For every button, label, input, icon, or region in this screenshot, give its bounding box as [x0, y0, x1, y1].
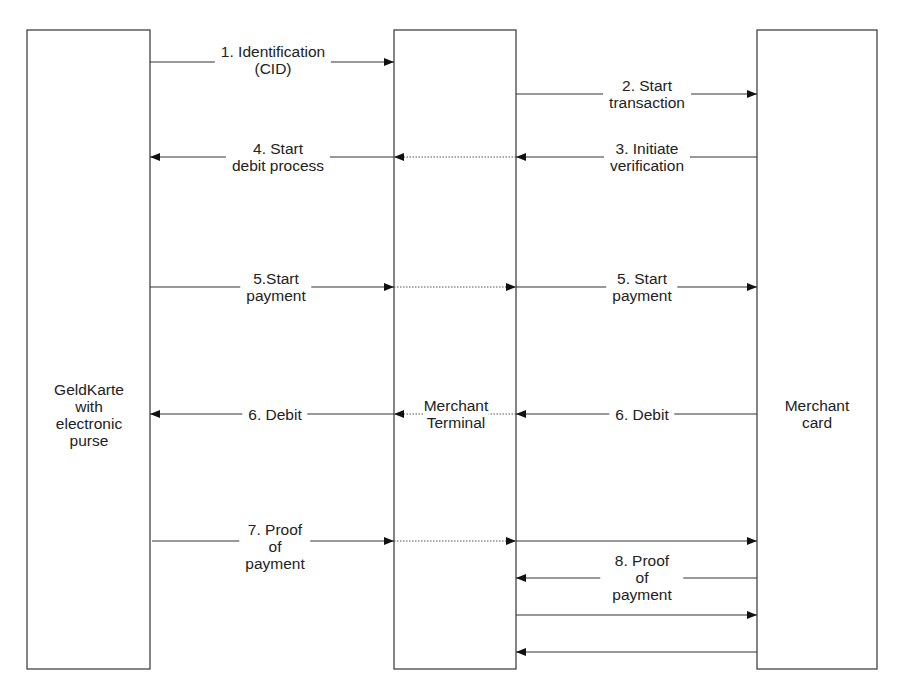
terminal-box — [394, 30, 516, 669]
terminal-label: MerchantTerminal — [424, 397, 489, 431]
sequence-diagram — [0, 0, 912, 697]
geldkarte-box — [27, 30, 150, 669]
merchant-card-box — [757, 30, 877, 669]
message-2-label: 2. Starttransaction — [603, 77, 691, 111]
message-5b-label: 5. Startpayment — [606, 270, 677, 304]
message-8-label: 8. Proofofpayment — [600, 552, 683, 603]
message-6b-label: 6. Debit — [242, 406, 307, 423]
message-6a-label: 6. Debit — [609, 406, 674, 423]
message-4-label: 4. Startdebit process — [226, 140, 330, 174]
message-3-label: 3. Initiateverification — [604, 140, 690, 174]
geldkarte-label: GeldKartewith electronicpurse — [54, 381, 124, 449]
merchant-card-label: Merchantcard — [785, 397, 850, 431]
message-7-label: 7. Proofofpayment — [239, 521, 310, 572]
message-5a-label: 5.Startpayment — [240, 270, 311, 304]
message-1-label: 1. Identification(CID) — [215, 43, 331, 77]
